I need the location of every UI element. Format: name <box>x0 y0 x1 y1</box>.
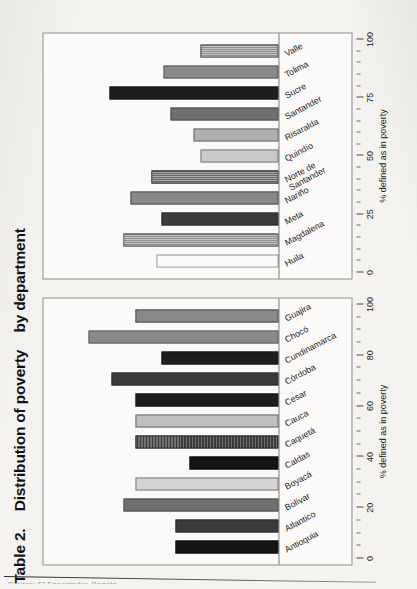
tick-label-100: 100 <box>364 296 374 311</box>
chart-b-ticks: 0255075100 <box>356 39 366 272</box>
bar-cesar <box>135 393 278 406</box>
bar-cell-bolivar <box>43 494 278 515</box>
category-cell-cundinamarca: Cundinamarca <box>280 347 351 368</box>
minor-tick-95 <box>356 316 360 317</box>
major-tick-25 <box>356 213 363 214</box>
minor-tick-35 <box>356 468 360 469</box>
major-tick-60 <box>356 405 363 406</box>
bar-cell-santander <box>43 103 278 124</box>
major-tick-75 <box>356 96 363 97</box>
chart-a-frame: AntioquiaAtlanticoBolívarBoyacáCaldasCaq… <box>42 297 352 565</box>
bar-cell-boyaca <box>43 473 278 494</box>
title-main: Distribution of poverty <box>10 349 27 511</box>
tick-label-20: 20 <box>364 502 374 512</box>
tick-label-75: 75 <box>364 92 374 102</box>
chart-b-bars <box>43 33 278 278</box>
category-label-guajira: Guajira <box>283 302 312 323</box>
bar-cell-guajira <box>43 305 278 326</box>
minor-tick-90 <box>356 61 360 62</box>
category-cell-quindio: Quindío <box>280 145 351 166</box>
chart-a-ticks: 020406080100 <box>356 304 366 558</box>
bar-cell-tolima <box>43 61 278 82</box>
category-label-cauca: Cauca <box>283 409 309 429</box>
chart-b-axis-title: % defined as in poverty <box>377 32 387 279</box>
bar-cordoba <box>111 372 278 385</box>
bar-huila <box>156 254 278 267</box>
minor-tick-85 <box>356 73 360 74</box>
minor-tick-15 <box>356 519 360 520</box>
bar-cell-caqueta <box>43 431 278 452</box>
category-label-valle: Valle <box>283 42 304 59</box>
bar-narino <box>130 191 278 204</box>
bar-cell-cauca <box>43 410 278 431</box>
minor-tick-45 <box>356 443 360 444</box>
minor-tick-40 <box>356 178 360 179</box>
major-tick-0 <box>356 557 363 558</box>
bar-cauca <box>135 414 278 427</box>
minor-tick-70 <box>356 108 360 109</box>
chart-a-axis-title: % defined as in poverty <box>377 297 387 565</box>
tick-label-0: 0 <box>364 269 374 274</box>
category-cell-antioquia: Antioquia <box>280 536 351 557</box>
category-cell-cordoba: Córdoba <box>280 368 351 389</box>
chart-a-bars <box>43 298 278 564</box>
bar-cell-antioquia <box>43 536 278 557</box>
chart-b-plot <box>43 33 279 278</box>
category-label-choco: Chocó <box>283 325 309 345</box>
minor-tick-60 <box>356 131 360 132</box>
bar-quindio <box>200 149 278 162</box>
title-prefix: Table 2. <box>10 528 27 583</box>
category-cell-sucre: Sucre <box>280 82 351 103</box>
category-cell-cesar: Cesar <box>280 389 351 410</box>
category-label-bolivar: Bolívar <box>283 492 311 513</box>
tick-label-80: 80 <box>364 350 374 360</box>
tick-label-60: 60 <box>364 401 374 411</box>
major-tick-20 <box>356 506 363 507</box>
bar-cell-cordoba <box>43 368 278 389</box>
category-label-meta: Meta <box>283 209 304 226</box>
category-cell-santander: Santander <box>280 103 351 124</box>
bar-cell-valle <box>43 40 278 61</box>
bar-tolima <box>163 65 278 78</box>
bar-norte-de-santander <box>151 170 278 183</box>
bar-atlantico <box>175 519 278 532</box>
minor-tick-15 <box>356 236 360 237</box>
page-title: Table 2. Distribution of poverty by depa… <box>10 228 28 583</box>
bar-cell-caldas <box>43 452 278 473</box>
bar-valle <box>200 44 278 57</box>
category-label-cesar: Cesar <box>283 389 308 408</box>
bar-cundinamarca <box>161 351 279 364</box>
category-cell-risaralda: Risaralda <box>280 124 351 145</box>
major-tick-80 <box>356 354 363 355</box>
minor-tick-5 <box>356 259 360 260</box>
category-cell-valle: Valle <box>280 40 351 61</box>
minor-tick-80 <box>356 85 360 86</box>
scanned-page: Table 2. Distribution of poverty by depa… <box>0 0 417 589</box>
minor-tick-95 <box>356 50 360 51</box>
bar-cell-cesar <box>43 389 278 410</box>
minor-tick-65 <box>356 392 360 393</box>
category-cell-choco: Chocó <box>280 326 351 347</box>
bar-santander <box>170 107 278 120</box>
bar-bolivar <box>123 498 278 511</box>
major-tick-50 <box>356 155 363 156</box>
major-tick-40 <box>356 455 363 456</box>
bar-cell-sucre <box>43 82 278 103</box>
bar-guajira <box>135 309 278 322</box>
bar-choco <box>88 330 278 343</box>
chart-b-axis-line <box>278 33 279 278</box>
category-cell-guajira: Guajira <box>280 305 351 326</box>
tick-label-40: 40 <box>364 451 374 461</box>
bar-meta <box>161 212 279 225</box>
bar-magdalena <box>123 233 278 246</box>
bar-cell-meta <box>43 208 278 229</box>
chart-a-plot <box>43 298 279 564</box>
minor-tick-30 <box>356 201 360 202</box>
page-content-rotated: Table 2. Distribution of poverty by depa… <box>0 0 417 589</box>
minor-tick-50 <box>356 430 360 431</box>
tick-label-50: 50 <box>364 150 374 160</box>
bar-caqueta <box>135 435 278 448</box>
chart-b-frame: HuilaMagdalenaMetaNariñoNorte de Santand… <box>42 32 352 279</box>
minor-tick-55 <box>356 143 360 144</box>
category-label-huila: Huila <box>283 251 305 268</box>
